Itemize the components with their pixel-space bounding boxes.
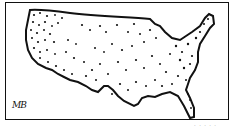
caption: · · · · · [194,122,217,128]
artist-signature: MB [12,100,26,110]
us-map-illustration [0,0,231,128]
us-outline [26,10,214,118]
